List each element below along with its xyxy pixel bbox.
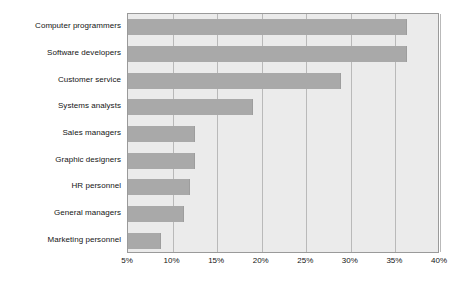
gridline xyxy=(440,14,441,252)
bar xyxy=(128,179,190,195)
value-axis: 5%10%15%20%25%30%35%40% xyxy=(127,256,439,270)
category-label: Customer service xyxy=(1,75,121,84)
category-label: Marketing personnel xyxy=(1,235,121,244)
category-label: Software developers xyxy=(1,48,121,57)
bar xyxy=(128,99,253,115)
bar xyxy=(128,206,184,222)
x-tick-label: 25% xyxy=(297,256,313,266)
category-axis: Computer programmersSoftware developersC… xyxy=(0,13,124,253)
category-label: HR personnel xyxy=(1,181,121,190)
bar xyxy=(128,19,407,35)
x-tick-label: 20% xyxy=(253,256,269,266)
x-tick-label: 35% xyxy=(386,256,402,266)
bar xyxy=(128,153,195,169)
bar xyxy=(128,46,407,62)
bars-layer xyxy=(128,14,438,252)
x-tick-label: 5% xyxy=(121,256,133,266)
bar xyxy=(128,126,195,142)
x-tick-label: 30% xyxy=(342,256,358,266)
category-label: Sales managers xyxy=(1,128,121,137)
x-tick-label: 15% xyxy=(208,256,224,266)
x-tick-label: 40% xyxy=(431,256,447,266)
plot-area xyxy=(127,13,439,253)
category-label: Graphic designers xyxy=(1,155,121,164)
x-tick-label: 10% xyxy=(164,256,180,266)
category-label: Computer programmers xyxy=(1,21,121,30)
bar xyxy=(128,73,341,89)
bar-chart: Computer programmersSoftware developersC… xyxy=(0,0,459,285)
category-label: General managers xyxy=(1,208,121,217)
bar xyxy=(128,233,161,249)
category-label: Systems analysts xyxy=(1,101,121,110)
